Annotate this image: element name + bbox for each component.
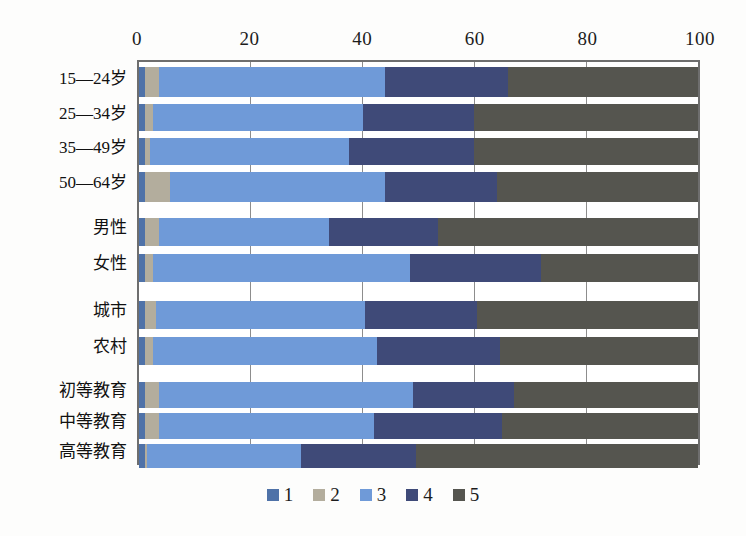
category-label: 农村 — [93, 338, 127, 355]
chart-legend: 12345 — [0, 484, 746, 506]
legend-label: 5 — [470, 484, 480, 506]
bar-segment-series-5[interactable] — [514, 382, 698, 408]
category-label: 中等教育 — [59, 413, 127, 430]
bar-segment-series-4[interactable] — [363, 104, 475, 131]
category-label: 25—34岁 — [59, 105, 127, 122]
bar-segment-series-3[interactable] — [153, 104, 363, 131]
bar-segment-series-3[interactable] — [170, 172, 385, 202]
x-tick-label: 0 — [132, 28, 142, 50]
bar-segment-series-2[interactable] — [145, 104, 153, 131]
legend-swatch-icon — [360, 489, 372, 501]
legend-swatch-icon — [313, 489, 325, 501]
bar-segment-series-2[interactable] — [145, 218, 159, 246]
category-axis-labels: 15—24岁25—34岁35—49岁50—64岁男性女性城市农村初等教育中等教育… — [0, 60, 133, 465]
bar-segment-series-3[interactable] — [159, 67, 385, 97]
bar-segment-series-4[interactable] — [329, 218, 438, 246]
legend-item-4[interactable]: 4 — [406, 484, 433, 506]
x-tick-label: 40 — [352, 28, 372, 50]
bar-segment-series-4[interactable] — [301, 444, 416, 468]
bar-row[interactable] — [139, 138, 698, 165]
stacked-bar-chart: 020406080100 15—24岁25—34岁35—49岁50—64岁男性女… — [0, 0, 746, 536]
legend-swatch-icon — [406, 489, 418, 501]
bar-segment-series-3[interactable] — [147, 444, 301, 468]
bar-segment-series-4[interactable] — [349, 138, 475, 165]
bar-segment-series-2[interactable] — [145, 172, 170, 202]
bar-segment-series-4[interactable] — [365, 301, 477, 329]
bar-segment-series-4[interactable] — [374, 413, 503, 439]
bars-layer — [139, 62, 698, 463]
bar-segment-series-4[interactable] — [413, 382, 514, 408]
bar-segment-series-2[interactable] — [145, 413, 159, 439]
bar-segment-series-4[interactable] — [385, 67, 508, 97]
category-label: 初等教育 — [59, 382, 127, 399]
category-label: 50—64岁 — [59, 174, 127, 191]
bar-segment-series-5[interactable] — [416, 444, 698, 468]
bar-segment-series-3[interactable] — [150, 138, 348, 165]
x-tick-label: 20 — [240, 28, 260, 50]
bar-segment-series-3[interactable] — [159, 413, 374, 439]
bar-segment-series-3[interactable] — [159, 382, 413, 408]
category-label: 15—24岁 — [59, 70, 127, 87]
bar-segment-series-2[interactable] — [145, 382, 159, 408]
bar-segment-series-4[interactable] — [410, 254, 541, 282]
category-label: 35—49岁 — [59, 139, 127, 156]
legend-label: 3 — [377, 484, 387, 506]
x-tick-label: 100 — [685, 28, 715, 50]
bar-segment-series-4[interactable] — [385, 172, 497, 202]
bar-segment-series-5[interactable] — [497, 172, 698, 202]
bar-segment-series-3[interactable] — [153, 254, 410, 282]
bar-segment-series-5[interactable] — [474, 104, 698, 131]
bar-segment-series-5[interactable] — [474, 138, 698, 165]
bar-segment-series-2[interactable] — [145, 254, 153, 282]
bar-row[interactable] — [139, 218, 698, 246]
legend-swatch-icon — [267, 489, 279, 501]
legend-item-3[interactable]: 3 — [360, 484, 387, 506]
bar-segment-series-2[interactable] — [145, 301, 156, 329]
plot-area — [137, 60, 700, 465]
category-label: 女性 — [93, 255, 127, 272]
bar-row[interactable] — [139, 67, 698, 97]
bar-row[interactable] — [139, 104, 698, 131]
bar-segment-series-4[interactable] — [377, 337, 500, 365]
bar-segment-series-5[interactable] — [541, 254, 698, 282]
x-axis-tick-labels: 020406080100 — [0, 28, 746, 52]
x-tick-label: 80 — [577, 28, 597, 50]
category-label: 高等教育 — [59, 443, 127, 460]
category-label: 男性 — [93, 219, 127, 236]
legend-item-5[interactable]: 5 — [453, 484, 480, 506]
bar-row[interactable] — [139, 444, 698, 468]
bar-segment-series-2[interactable] — [145, 67, 159, 97]
legend-item-1[interactable]: 1 — [267, 484, 294, 506]
bar-segment-series-5[interactable] — [477, 301, 698, 329]
bar-segment-series-5[interactable] — [500, 337, 698, 365]
bar-row[interactable] — [139, 254, 698, 282]
bar-segment-series-3[interactable] — [153, 337, 377, 365]
legend-item-2[interactable]: 2 — [313, 484, 340, 506]
legend-label: 4 — [423, 484, 433, 506]
bar-row[interactable] — [139, 301, 698, 329]
bar-row[interactable] — [139, 337, 698, 365]
bar-segment-series-5[interactable] — [502, 413, 698, 439]
bar-segment-series-2[interactable] — [145, 337, 153, 365]
legend-swatch-icon — [453, 489, 465, 501]
bar-segment-series-3[interactable] — [156, 301, 366, 329]
bar-segment-series-5[interactable] — [438, 218, 698, 246]
bar-row[interactable] — [139, 413, 698, 439]
bar-segment-series-5[interactable] — [508, 67, 698, 97]
bar-segment-series-3[interactable] — [159, 218, 329, 246]
legend-label: 2 — [330, 484, 340, 506]
x-tick-label: 60 — [465, 28, 485, 50]
bar-row[interactable] — [139, 382, 698, 408]
category-label: 城市 — [93, 302, 127, 319]
legend-label: 1 — [284, 484, 294, 506]
bar-row[interactable] — [139, 172, 698, 202]
